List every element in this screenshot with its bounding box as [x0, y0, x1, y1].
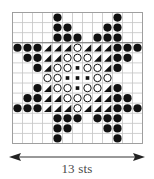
half-triangle-icon: [104, 64, 111, 71]
filled-circle-icon: [113, 84, 121, 92]
half-triangle-icon: [44, 44, 51, 51]
half-triangle-icon: [104, 85, 111, 92]
filled-circle-icon: [33, 84, 41, 92]
half-triangle-icon: [54, 44, 61, 51]
open-circle-icon: [84, 94, 91, 101]
half-triangle-icon: [44, 95, 51, 102]
open-circle-icon: [74, 54, 81, 61]
half-triangle-icon: [104, 95, 111, 102]
open-circle-icon: [94, 74, 101, 81]
half-triangle-icon: [54, 95, 61, 102]
filled-circle-icon: [113, 54, 121, 62]
filled-circle-icon: [113, 34, 121, 42]
small-square-icon: [66, 76, 70, 80]
half-triangle-icon: [64, 105, 71, 112]
filled-circle-icon: [53, 24, 61, 32]
filled-circle-icon: [103, 114, 111, 122]
half-triangle-icon: [94, 105, 101, 112]
filled-circle-icon: [113, 134, 121, 142]
open-circle-icon: [64, 84, 71, 91]
filled-circle-icon: [93, 114, 101, 122]
filled-circle-icon: [63, 114, 71, 122]
knitting-chart-grid: [12, 12, 142, 143]
open-circle-icon: [74, 105, 81, 112]
filled-circle-icon: [93, 34, 101, 42]
filled-circle-icon: [103, 124, 111, 132]
filled-circle-icon: [33, 54, 41, 62]
filled-circle-icon: [23, 104, 31, 112]
filled-circle-icon: [63, 34, 71, 42]
filled-circle-icon: [33, 44, 41, 52]
filled-circle-icon: [33, 64, 41, 72]
small-square-icon: [86, 76, 90, 80]
filled-circle-icon: [33, 94, 41, 102]
small-square-icon: [76, 66, 80, 70]
filled-circle-icon: [53, 124, 61, 132]
open-circle-icon: [54, 64, 61, 71]
half-triangle-icon: [54, 54, 61, 61]
half-triangle-icon: [44, 105, 51, 112]
open-circle-icon: [64, 54, 71, 61]
filled-circle-icon: [123, 104, 131, 112]
half-triangle-icon: [84, 44, 91, 51]
half-triangle-icon: [64, 44, 71, 51]
filled-circle-icon: [53, 13, 61, 21]
filled-circle-icon: [113, 114, 121, 122]
half-triangle-icon: [104, 105, 111, 112]
open-circle-icon: [44, 74, 51, 81]
filled-circle-icon: [113, 124, 121, 132]
small-square-icon: [76, 76, 80, 80]
filled-circle-icon: [103, 24, 111, 32]
filled-circle-icon: [73, 34, 81, 42]
filled-circle-icon: [133, 44, 141, 52]
open-circle-icon: [94, 84, 101, 91]
open-circle-icon: [54, 74, 61, 81]
filled-circle-icon: [53, 134, 61, 142]
half-triangle-icon: [104, 44, 111, 51]
open-circle-icon: [64, 64, 71, 71]
filled-circle-icon: [53, 34, 61, 42]
filled-circle-icon: [73, 114, 81, 122]
filled-circle-icon: [113, 44, 121, 52]
stitch-count-label: 13 sts: [0, 161, 154, 177]
filled-circle-icon: [113, 64, 121, 72]
filled-circle-icon: [103, 34, 111, 42]
open-circle-icon: [84, 84, 91, 91]
filled-circle-icon: [23, 94, 31, 102]
open-circle-icon: [94, 64, 101, 71]
half-triangle-icon: [54, 105, 61, 112]
open-circle-icon: [84, 54, 91, 61]
filled-circle-icon: [33, 104, 41, 112]
filled-circle-icon: [133, 104, 141, 112]
half-triangle-icon: [84, 105, 91, 112]
open-circle-icon: [74, 94, 81, 101]
open-circle-icon: [104, 74, 111, 81]
filled-circle-icon: [113, 13, 121, 21]
filled-circle-icon: [23, 44, 31, 52]
filled-circle-icon: [53, 114, 61, 122]
open-circle-icon: [74, 44, 81, 51]
filled-circle-icon: [123, 44, 131, 52]
half-triangle-icon: [94, 54, 101, 61]
filled-circle-icon: [123, 94, 131, 102]
filled-circle-icon: [13, 44, 21, 52]
filled-circle-icon: [113, 94, 121, 102]
filled-circle-icon: [13, 104, 21, 112]
filled-circle-icon: [63, 124, 71, 132]
half-triangle-icon: [44, 64, 51, 71]
half-triangle-icon: [94, 95, 101, 102]
open-circle-icon: [54, 84, 61, 91]
half-triangle-icon: [44, 54, 51, 61]
half-triangle-icon: [44, 85, 51, 92]
filled-circle-icon: [63, 24, 71, 32]
half-triangle-icon: [94, 44, 101, 51]
half-triangle-icon: [104, 54, 111, 61]
filled-circle-icon: [113, 24, 121, 32]
filled-circle-icon: [123, 54, 131, 62]
open-circle-icon: [64, 94, 71, 101]
filled-circle-icon: [113, 104, 121, 112]
small-square-icon: [76, 86, 80, 90]
filled-circle-icon: [23, 54, 31, 62]
open-circle-icon: [84, 64, 91, 71]
